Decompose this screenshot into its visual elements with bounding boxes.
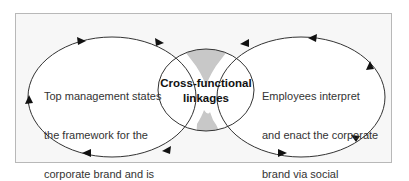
text-line: Top management states (44, 90, 175, 103)
center-circle-label: Cross-functional linkages (158, 76, 254, 106)
text-line: Employees interpret (262, 90, 378, 103)
right-ellipse-text: Employees interpret and enact the corpor… (262, 64, 378, 181)
text-line: corporate brand and is (44, 168, 175, 181)
arrow-icon (240, 39, 249, 47)
text-line: the framework for the (44, 129, 175, 142)
arrow-icon (155, 38, 164, 46)
text-line: brand via social (262, 168, 378, 181)
text-line: linkages (158, 91, 254, 106)
text-line: and enact the corporate (262, 129, 378, 142)
left-ellipse-text: Top management states the framework for … (44, 64, 175, 181)
text-line: Cross-functional (158, 76, 254, 91)
